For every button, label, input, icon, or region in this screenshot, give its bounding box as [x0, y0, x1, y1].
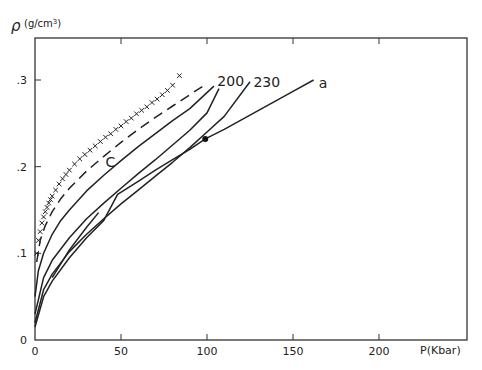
curve-label: C [106, 154, 116, 170]
series-c [35, 86, 214, 297]
chart: 0501001502000.1.2.3 C200230a ρ (g/cm3) P… [0, 0, 482, 370]
y-tick-label: .1 [17, 247, 28, 260]
x-tick-label: 100 [197, 345, 218, 358]
y-tick-label: .2 [17, 161, 28, 174]
curve-label: a [319, 75, 328, 91]
x-tick-label: 50 [114, 345, 128, 358]
y-axis-unit: (g/cm3) [24, 18, 61, 29]
data-series [34, 73, 313, 327]
x-axis-label: P(Kbar) [420, 344, 461, 357]
data-point-marker [202, 136, 208, 142]
y-tick-label: 0 [20, 334, 27, 347]
curve-label: 230 [253, 74, 280, 90]
axis-ticks: 0501001502000.1.2.3 [17, 38, 390, 358]
curve-label: 200 [217, 73, 244, 89]
y-axis-symbol: ρ [11, 17, 21, 35]
plot-frame [35, 38, 467, 340]
plot-border [35, 38, 467, 340]
series-230 [35, 82, 250, 323]
x-tick-label: 150 [283, 345, 304, 358]
series-dashed [37, 84, 207, 263]
series-a [35, 80, 314, 327]
x-tick-label: 0 [32, 345, 39, 358]
y-tick-label: .3 [17, 74, 28, 87]
x-tick-label: 200 [369, 345, 390, 358]
curve-labels: C200230a [106, 73, 328, 170]
